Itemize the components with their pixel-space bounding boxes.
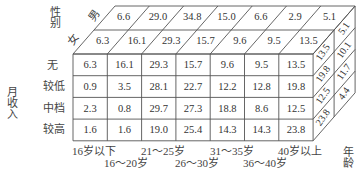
front-cell: 25.4 (184, 124, 203, 135)
income-axis-title: 月收入 (6, 86, 17, 119)
top-cell-female: 9.6 (233, 35, 246, 46)
side-cell-front: 19.8 (313, 64, 332, 85)
front-cell: 19.8 (287, 81, 305, 92)
age-label-16-20: 16～20岁 (104, 158, 148, 169)
front-cell: 14.3 (218, 124, 236, 135)
top-cell-female: 9.5 (268, 35, 281, 46)
top-cell-female: 13.5 (299, 35, 317, 46)
age-label-over40: 40岁以上 (278, 146, 322, 157)
front-cell: 28.1 (150, 81, 168, 92)
top-cell-female: 29.3 (162, 35, 180, 46)
front-cell: 15.7 (184, 59, 202, 70)
age-label-36-40: 36～40岁 (243, 158, 287, 169)
front-cell: 9.6 (221, 59, 234, 70)
side-cell-front: 12.5 (313, 85, 332, 106)
front-cell: 16.1 (115, 59, 133, 70)
front-cell: 27.3 (184, 103, 202, 114)
age-label-26-30: 26～30岁 (175, 158, 219, 169)
front-cell: 18.8 (218, 103, 236, 114)
age-label-31-35: 31～35岁 (210, 146, 254, 157)
front-cell: 3.5 (118, 81, 131, 92)
front-cell: 8.6 (255, 103, 268, 114)
income-label-low: 较低 (43, 81, 65, 92)
front-cell: 0.8 (118, 103, 131, 114)
top-cell-male: 2.9 (289, 11, 302, 22)
front-cell: 2.3 (84, 103, 97, 114)
side-cell-back: 10.1 (334, 40, 353, 61)
front-cell: 1.6 (118, 124, 131, 135)
front-cell: 29.3 (150, 59, 168, 70)
top-cell-male: 15.0 (217, 11, 235, 22)
top-cell-male: 6.6 (254, 11, 267, 22)
top-cell-female: 15.7 (196, 35, 214, 46)
top-cell-female: 6.3 (96, 35, 109, 46)
front-cell: 19.0 (150, 124, 168, 135)
front-cell: 13.5 (287, 59, 305, 70)
front-cell: 12.2 (218, 81, 236, 92)
front-cell: 12.5 (287, 103, 305, 114)
age-axis-title: 年龄 (342, 146, 353, 168)
top-cell-male: 34.8 (183, 11, 201, 22)
front-cell: 0.9 (84, 81, 97, 92)
income-label-mid: 中档 (43, 103, 65, 114)
age-label-21-25: 21～25岁 (141, 146, 185, 157)
top-cell-male: 5.1 (323, 11, 336, 22)
front-cell: 1.6 (84, 124, 97, 135)
top-cell-male: 29.0 (149, 11, 167, 22)
front-cell: 12.8 (252, 81, 270, 92)
top-cell-female: 16.1 (128, 35, 146, 46)
age-label-under16: 16岁以下 (72, 146, 116, 157)
front-cell: 22.7 (184, 81, 202, 92)
top-cell-male: 6.6 (117, 11, 130, 22)
front-cell: 9.5 (255, 59, 268, 70)
front-cell: 6.3 (84, 59, 97, 70)
income-label-none: 无 (47, 60, 58, 71)
income-label-high: 较高 (43, 124, 65, 135)
side-cell-back: 11.7 (334, 61, 353, 81)
gender-axis-title: 性别 (49, 6, 60, 28)
side-cell-front: 23.8 (313, 107, 332, 128)
front-cell: 14.3 (252, 124, 270, 135)
front-cell: 23.8 (287, 124, 305, 135)
front-cell: 29.7 (150, 103, 168, 114)
